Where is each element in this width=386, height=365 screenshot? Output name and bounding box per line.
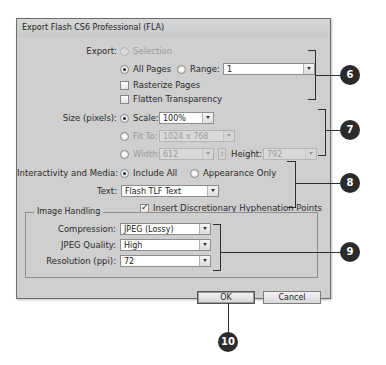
chevron-down-icon [199, 256, 210, 266]
width-select[interactable]: 612 [159, 148, 214, 160]
size-label: Size (pixels): [37, 113, 117, 123]
chevron-down-icon [199, 224, 210, 234]
callout-7-bracket [318, 109, 326, 156]
callout-10-badge: 10 [218, 332, 238, 352]
constrain-proportions-icon[interactable]: ↕ [218, 148, 226, 160]
cancel-button[interactable]: Cancel [263, 291, 321, 304]
range-select[interactable]: 1 [223, 63, 315, 75]
chevron-down-icon [207, 186, 218, 196]
export-selection-radio[interactable] [120, 47, 129, 56]
ok-button[interactable]: OK [197, 291, 255, 304]
appearance-only-label: Appearance Only [203, 168, 276, 178]
export-all-pages-radio[interactable] [120, 65, 129, 74]
size-height-label: Height: [231, 149, 262, 159]
compression-label: Compression: [36, 224, 116, 234]
rasterize-pages-label: Rasterize Pages [133, 80, 200, 90]
scale-select[interactable]: 100% [159, 112, 214, 124]
callout-6-bracket [308, 50, 316, 100]
interactivity-label: Interactivity and Media: [17, 168, 117, 178]
size-fit-to-label: Fit To: [133, 131, 157, 141]
image-handling-group: Image Handling Compression: JPEG (Lossy)… [25, 212, 318, 278]
text-select[interactable]: Flash TLF Text [121, 185, 219, 197]
export-dialog: Export Flash CS6 Professional (FLA) Expo… [16, 18, 331, 299]
fit-to-value: 1024 x 768 [163, 132, 208, 141]
callout-10-line [228, 303, 229, 333]
scale-value: 100% [163, 114, 186, 123]
chevron-down-icon [199, 240, 210, 250]
callout-7-line [326, 130, 340, 131]
rasterize-pages-checkbox[interactable] [120, 81, 129, 90]
text-label: Text: [57, 186, 117, 196]
size-scale-label: Scale: [133, 113, 159, 123]
callout-6-line [316, 75, 340, 76]
appearance-only-radio[interactable] [190, 169, 199, 178]
size-scale-radio[interactable] [120, 114, 129, 123]
resolution-value: 72 [124, 257, 134, 266]
callout-9-line [221, 252, 340, 253]
size-width-label: Width: [133, 149, 161, 159]
callout-8-line [296, 183, 340, 184]
size-fit-to-radio[interactable] [120, 132, 129, 141]
chevron-down-icon [202, 113, 213, 123]
height-select[interactable]: 792 [263, 148, 317, 160]
chevron-down-icon [202, 149, 213, 159]
flatten-transparency-checkbox[interactable] [120, 95, 129, 104]
callout-8-badge: 8 [340, 173, 360, 193]
export-range-radio[interactable] [177, 65, 186, 74]
callout-6-badge: 6 [340, 65, 360, 85]
chevron-down-icon [223, 131, 234, 141]
jpeg-quality-label: JPEG Quality: [36, 240, 116, 250]
fit-to-select[interactable]: 1024 x 768 [159, 130, 235, 142]
jpeg-quality-select[interactable]: High [120, 239, 211, 251]
range-value: 1 [227, 65, 232, 74]
callout-9-badge: 9 [340, 242, 360, 262]
export-label: Export: [57, 46, 117, 56]
resolution-label: Resolution (ppi): [26, 256, 116, 266]
include-all-label: Include All [133, 168, 177, 178]
chevron-down-icon [305, 149, 316, 159]
export-all-pages-label: All Pages [133, 64, 171, 74]
callout-8-bracket [287, 161, 296, 208]
dialog-title: Export Flash CS6 Professional (FLA) [17, 19, 330, 37]
export-range-label: Range: [190, 64, 220, 74]
text-value: Flash TLF Text [125, 187, 181, 196]
callout-7-badge: 7 [340, 120, 360, 140]
height-value: 792 [267, 150, 282, 159]
flatten-transparency-label: Flatten Transparency [133, 94, 222, 104]
compression-select[interactable]: JPEG (Lossy) [120, 223, 211, 235]
include-all-radio[interactable] [120, 169, 129, 178]
resolution-select[interactable]: 72 [120, 255, 211, 267]
image-handling-title: Image Handling [34, 207, 103, 216]
export-selection-label: Selection [133, 46, 172, 56]
jpeg-quality-value: High [124, 241, 142, 250]
size-width-radio[interactable] [120, 150, 129, 159]
width-value: 612 [163, 150, 178, 159]
compression-value: JPEG (Lossy) [124, 225, 174, 234]
callout-9-bracket [213, 224, 221, 271]
